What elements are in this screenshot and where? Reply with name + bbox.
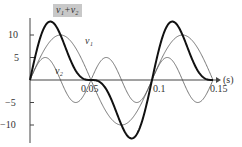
series-label-sum: v₁+v₂ bbox=[53, 4, 82, 17]
series-label-v2: v₂ bbox=[55, 66, 63, 76]
x-tick-label-0.1: 0.1 bbox=[153, 84, 166, 94]
y-tick-label-5: 5 bbox=[14, 53, 19, 63]
y-tick-label-neg10: −10 bbox=[0, 120, 16, 130]
series-label-v1: v₁ bbox=[85, 36, 93, 46]
x-tick-label-0.05: 0.05 bbox=[81, 84, 99, 94]
y-tick-label-neg5: −5 bbox=[5, 98, 16, 108]
y-tick-label-10: 10 bbox=[8, 30, 18, 40]
chart-plot bbox=[0, 0, 242, 147]
x-tick-label-0.15: 0.15 bbox=[210, 84, 228, 94]
x-axis-unit-label: (s) bbox=[223, 75, 234, 85]
